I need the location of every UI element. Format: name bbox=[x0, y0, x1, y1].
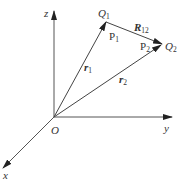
origin-label: O bbox=[51, 124, 59, 136]
x-axis-label: x bbox=[2, 169, 8, 181]
point-Q2-label: Q2 bbox=[165, 40, 177, 54]
vector-r2 bbox=[54, 45, 161, 117]
point-P2-label: P2 bbox=[140, 40, 150, 54]
vector-R12-label: R12 bbox=[133, 21, 149, 35]
z-axis-label: z bbox=[43, 7, 49, 19]
point-P1-label: P1 bbox=[109, 30, 119, 44]
vector-r1-label: r1 bbox=[84, 61, 92, 75]
vector-r1 bbox=[54, 22, 106, 117]
point-Q1-label: Q1 bbox=[98, 7, 110, 21]
vector-diagram: z y x O Q1 P1 Q2 P2 R12 r1 r2 bbox=[0, 0, 188, 182]
x-axis bbox=[3, 117, 54, 168]
y-axis-label: y bbox=[163, 122, 169, 134]
vector-r2-label: r2 bbox=[119, 73, 127, 87]
